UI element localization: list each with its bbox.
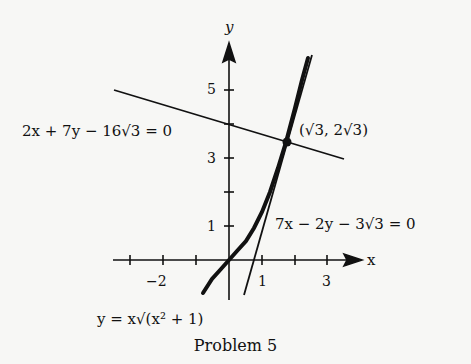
x-axis-label: x — [367, 253, 375, 268]
x-axis-arrow-icon — [344, 254, 362, 266]
caption: Problem 5 — [0, 336, 471, 355]
x-axis — [113, 254, 362, 266]
y-axis-label: y — [225, 20, 233, 35]
y-axis-arrow-icon — [223, 43, 235, 62]
figure: y x 5 3 1 −2 1 3 2x + 7y − 16√3 = 0 (√3,… — [0, 0, 471, 364]
y-tick-3: 3 — [207, 151, 216, 165]
x-tick-1: 1 — [258, 274, 267, 288]
y-tick-5: 5 — [207, 82, 216, 96]
intersection-point — [283, 138, 292, 147]
plot-area — [0, 0, 471, 364]
curve — [203, 58, 308, 293]
point-label: (√3, 2√3) — [299, 123, 368, 138]
x-tick-neg2: −2 — [146, 274, 167, 288]
x-tick-3: 3 — [322, 274, 331, 288]
curve-label: y = x√(x² + 1) — [97, 312, 203, 327]
tangent-line — [244, 55, 312, 295]
tangent-line-label: 7x − 2y − 3√3 = 0 — [275, 217, 416, 232]
normal-line-label: 2x + 7y − 16√3 = 0 — [22, 124, 172, 139]
y-tick-1: 1 — [207, 219, 216, 233]
